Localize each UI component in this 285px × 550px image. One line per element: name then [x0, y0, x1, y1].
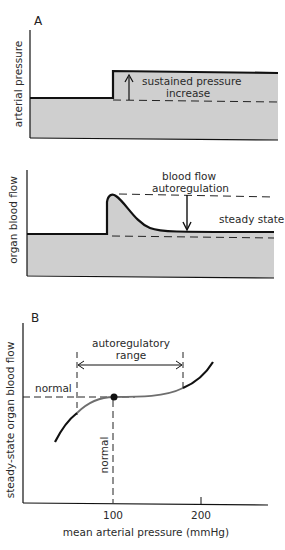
x-axis-label: mean arterial pressure (mmHg): [63, 526, 229, 538]
flow-area: [27, 195, 274, 278]
flow-ylabel: organ blood flow: [7, 176, 19, 264]
curve-high-segment: [183, 362, 213, 388]
curve-plateau-segment: [77, 388, 183, 413]
peak-dashed: [119, 194, 274, 197]
arterial-pressure-chart: sustained pressure increase arterial pre…: [12, 30, 278, 140]
tick-label-200: 200: [191, 509, 211, 521]
panel-b-label: B: [31, 311, 39, 325]
pressure-annotation-1: sustained pressure: [142, 75, 242, 87]
tick-label-100: 100: [103, 509, 123, 521]
flow-annotation-1: blood flow: [162, 170, 216, 182]
y-axis-label: steady-state organ blood flow: [4, 341, 16, 498]
pressure-annotation-2: increase: [166, 87, 210, 99]
organ-blood-flow-chart: blood flow autoregulation steady state o…: [7, 170, 284, 278]
pressure-ylabel: arterial pressure: [12, 41, 24, 128]
normal-point: [111, 394, 118, 401]
range-label-2: range: [116, 349, 147, 361]
range-label-1: autoregulatory: [92, 337, 170, 349]
normal-flow-label: normal: [35, 382, 72, 394]
flow-annotation-2: autoregulation: [152, 182, 229, 194]
autoregulation-curve-chart: 100 200 mean arterial pressure (mmHg) st…: [4, 323, 268, 538]
steady-state-label: steady state: [219, 213, 284, 225]
x-axis: [23, 503, 268, 505]
normal-pressure-label: normal: [98, 437, 110, 474]
curve-low-segment: [55, 413, 77, 442]
diagram: A sustained pressure increase arterial p…: [0, 0, 285, 550]
panel-a-label: A: [34, 14, 43, 28]
